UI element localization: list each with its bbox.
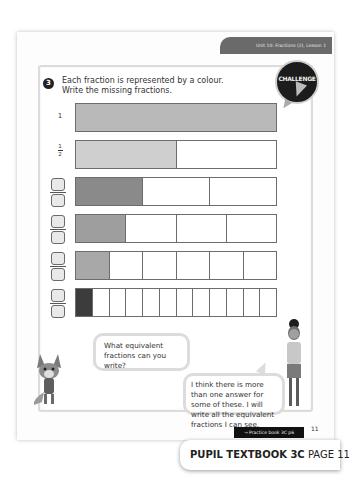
bar-segment	[192, 289, 209, 316]
bar-segment	[209, 252, 243, 279]
numerator-answer-box[interactable]	[51, 215, 65, 228]
lightning-bolt-icon	[291, 81, 307, 98]
bar-segment	[259, 289, 276, 316]
fraction-bar-wholes	[75, 103, 277, 132]
bar-segment	[209, 178, 276, 205]
challenge-badge: CHALLENGE	[275, 60, 319, 104]
bar-segment	[209, 289, 226, 316]
bar-segment	[176, 289, 193, 316]
bar-segment-shaded	[76, 215, 125, 242]
girl-character-icon	[283, 318, 305, 410]
numerator-answer-box[interactable]	[51, 252, 65, 265]
fraction-label-half: 1 2	[54, 144, 66, 157]
textbook-title: PUPIL TEXTBOOK 3C	[190, 449, 305, 460]
fraction-label-whole: 1	[54, 112, 66, 120]
bar-segment	[142, 252, 176, 279]
fraction-line	[50, 266, 66, 267]
textbook-page: PAGE 11	[308, 449, 350, 460]
bar-segment	[109, 252, 143, 279]
fraction-bar-twelfths	[75, 288, 277, 317]
denominator-answer-box[interactable]	[51, 305, 65, 318]
fox-character-icon	[32, 352, 68, 407]
bar-segment	[243, 289, 260, 316]
denominator-answer-box[interactable]	[51, 231, 65, 244]
question-line-2: Write the missing fractions.	[62, 86, 224, 96]
fox-speech-bubble: What equivalent fractions can you write?	[93, 333, 190, 371]
practice-book-link[interactable]: → Practice book 3C p6	[234, 427, 304, 438]
fraction-bar-halves	[75, 140, 277, 169]
bar-segment	[226, 289, 243, 316]
textbook-label: PUPIL TEXTBOOK 3C PAGE 11	[190, 449, 350, 460]
question-number: 3	[43, 78, 54, 89]
numerator-answer-box[interactable]	[51, 289, 65, 302]
bar-segment-shaded	[76, 178, 142, 205]
fraction-line	[50, 229, 66, 230]
bar-segment	[92, 289, 109, 316]
bar-segment	[109, 289, 126, 316]
bar-segment	[243, 252, 277, 279]
numerator: 1	[58, 144, 62, 149]
numerator-answer-box[interactable]	[51, 178, 65, 191]
bar-segment	[142, 178, 209, 205]
bar-segment-shaded	[76, 141, 176, 168]
fraction-bar-quarters	[75, 214, 277, 243]
denominator: 2	[58, 152, 62, 157]
question-line-1: Each fraction is represented by a colour…	[62, 76, 224, 86]
bar-segment	[176, 215, 226, 242]
bar-segment	[159, 289, 176, 316]
bar-segment-shaded	[76, 252, 109, 279]
girl-speech-bubble: I think there is more than one answer fo…	[183, 373, 285, 415]
bar-segment	[176, 141, 277, 168]
question-text: Each fraction is represented by a colour…	[62, 76, 224, 96]
page-number: 11	[311, 425, 319, 432]
denominator-answer-box[interactable]	[51, 268, 65, 281]
fraction-bar-sixths	[75, 251, 277, 280]
bar-segment	[125, 289, 142, 316]
denominator-answer-box[interactable]	[51, 194, 65, 207]
bar-segment-shaded	[76, 104, 276, 131]
fraction-line	[50, 192, 66, 193]
fraction-line	[50, 303, 66, 304]
bar-segment	[125, 215, 175, 242]
fraction-bar-thirds	[75, 177, 277, 206]
bar-segment-shaded	[76, 289, 92, 316]
bar-segment	[176, 252, 210, 279]
bar-segment	[226, 215, 276, 242]
unit-tab: Unit 10: Fractions (2), Lesson 1	[220, 37, 332, 54]
bar-segment	[142, 289, 159, 316]
